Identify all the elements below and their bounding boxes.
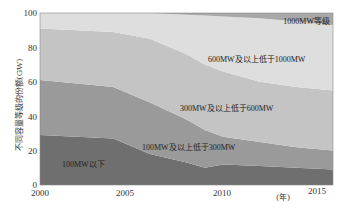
label-300-600mw: 300MW及以上低于600MW [180,103,274,113]
label-below-100mw: 100MW以下 [62,160,105,169]
y-tick-100: 100 [24,8,38,18]
x-tick-2005: 2005 [116,188,135,198]
x-tick-2010: 2010 [213,188,232,198]
label-1000mw: 1000MW等级 [283,16,330,26]
y-axis-title: 不同容量等级的份额(GW) [14,59,24,152]
x-tick-2000: 2000 [31,188,50,198]
y-axis: 0 20 40 60 80 100 [24,8,38,190]
y-tick-40: 40 [28,112,38,122]
stacked-area-chart: 0 20 40 60 80 100 不同容量等级的份额(GW) 2000 200… [0,0,344,213]
label-600-1000mw: 600MW及以上低于1000MW [208,54,306,64]
x-axis-title: (年) [276,192,290,202]
x-tick-2015: 2015 [308,186,327,196]
y-tick-80: 80 [28,43,38,53]
label-100-300mw: 100MW及以上低于300MW [142,142,236,152]
y-tick-60: 60 [28,77,38,87]
y-tick-20: 20 [28,146,38,156]
